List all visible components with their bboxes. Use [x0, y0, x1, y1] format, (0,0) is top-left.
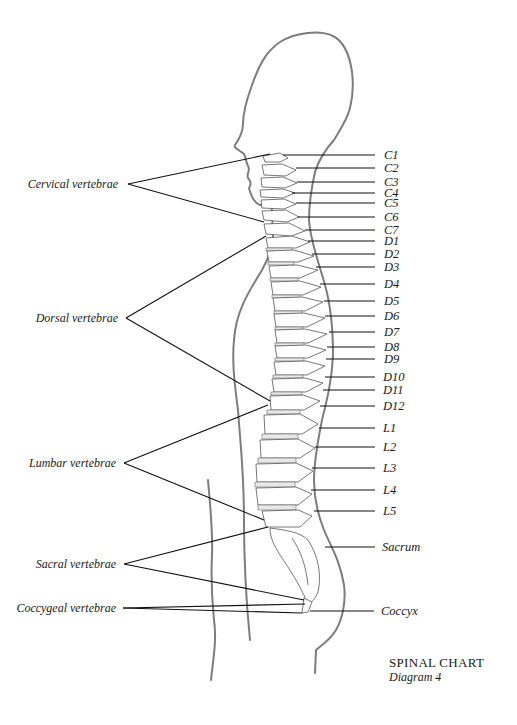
vertebra-label-d6: D6 — [383, 309, 400, 323]
vertebra-label-d11: D11 — [382, 383, 404, 397]
region-label-dorsal: Dorsal vertebrae — [35, 311, 119, 325]
vertebra-label-l3: L3 — [382, 461, 396, 475]
vertebra-label-l5: L5 — [382, 504, 396, 518]
region-label-coccygeal: Coccygeal vertebrae — [16, 601, 116, 615]
vertebra-label-c2: C2 — [384, 161, 399, 175]
vertebra-label-coccyx: Coccyx — [381, 604, 418, 618]
vertebra-label-l2: L2 — [382, 440, 396, 454]
vertebra-label-d3: D3 — [383, 260, 399, 274]
vertebra-label-d5: D5 — [383, 294, 399, 308]
vertebra-label-l1: L1 — [382, 421, 396, 435]
vertebra-label-c5: C5 — [384, 196, 399, 210]
region-label-lumbar: Lumbar vertebrae — [28, 456, 117, 470]
vertebra-label-d12: D12 — [382, 399, 405, 413]
vertebra-label-sacrum: Sacrum — [382, 540, 420, 554]
region-label-cervical: Cervical vertebrae — [28, 177, 119, 191]
vertebra-label-d10: D10 — [382, 370, 405, 384]
region-label-sacral: Sacral vertebrae — [36, 557, 117, 571]
vertebra-label-d7: D7 — [383, 325, 400, 339]
vertebra-labels: C1 C2 C3 C4 C5 C6 C7 D1 D2 D3 D4 D5 D6 D… — [381, 148, 420, 618]
vertebra-label-d4: D4 — [383, 277, 399, 291]
vertebra-label-c1: C1 — [384, 148, 399, 162]
vertebra-label-d1: D1 — [383, 234, 399, 248]
vertebra-label-d9: D9 — [383, 352, 400, 366]
vertebra-label-l4: L4 — [382, 483, 396, 497]
chart-title: SPINAL CHART — [389, 655, 484, 670]
chart-subtitle: Diagram 4 — [388, 670, 441, 684]
vertebra-label-d2: D2 — [383, 247, 399, 261]
spinal-chart-diagram: Cervical vertebrae Dorsal vertebrae Lumb… — [0, 0, 517, 725]
vertebra-label-c6: C6 — [384, 210, 399, 224]
spine-illustration — [255, 153, 327, 613]
